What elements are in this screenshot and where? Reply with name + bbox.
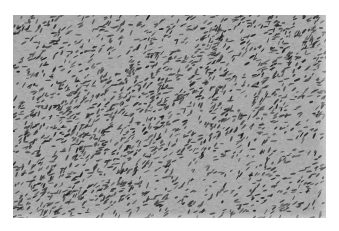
page xyxy=(0,0,339,231)
histology-micrograph xyxy=(13,15,326,218)
tissue-texture xyxy=(13,15,326,218)
